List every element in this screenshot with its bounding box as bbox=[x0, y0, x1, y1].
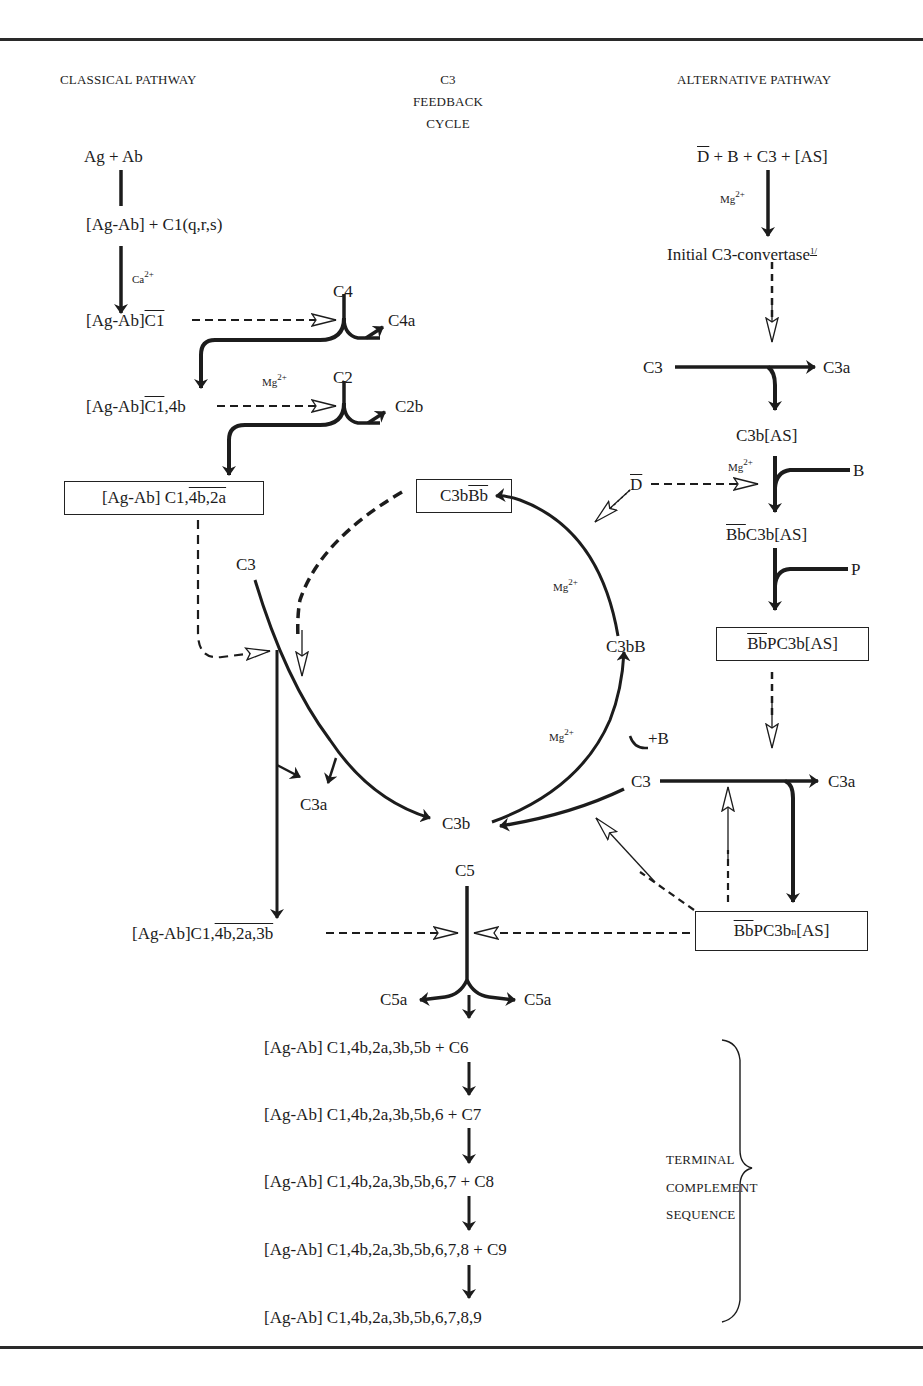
terminal-label-line1: TERMINAL bbox=[666, 1153, 735, 1166]
alt-c5-convertase-box: BbPC3bn[AS] bbox=[695, 911, 868, 951]
feedback-cycle-header-line3: CYCLE bbox=[418, 117, 478, 130]
c2b-label: C2b bbox=[395, 398, 423, 415]
c3-amplification-label: C3 bbox=[631, 773, 651, 790]
terminal-step-2: [Ag-Ab] C1,4b,2a,3b,5b,6 + C7 bbox=[264, 1106, 481, 1123]
c3-alt-label: C3 bbox=[643, 359, 663, 376]
c2-label: C2 bbox=[333, 369, 353, 386]
factor-b-label: B bbox=[853, 462, 864, 479]
alternative-pathway-header: ALTERNATIVE PATHWAY bbox=[677, 73, 831, 86]
c3a-alt-label: C3a bbox=[823, 359, 850, 376]
terminal-step-1: [Ag-Ab] C1,4b,2a,3b,5b + C6 bbox=[264, 1039, 469, 1056]
terminal-step-3: [Ag-Ab] C1,4b,2a,3b,5b,6,7 + C8 bbox=[264, 1173, 494, 1190]
magnesium-ion-label-alt: Mg2+ bbox=[720, 190, 745, 205]
c1-4b-label: [Ag-Ab]C1,4b bbox=[86, 398, 186, 415]
ag-ab-c1-label: [Ag-Ab] + C1(q,r,s) bbox=[86, 216, 222, 233]
properdin-label: P bbox=[851, 561, 860, 578]
magnesium-ion-label-bottom: Mg2+ bbox=[549, 728, 574, 743]
terminal-label-line3: SEQUENCE bbox=[666, 1208, 736, 1221]
terminal-label-line2: COMPLEMENT bbox=[666, 1181, 758, 1194]
terminal-step-5: [Ag-Ab] C1,4b,2a,3b,5b,6,7,8,9 bbox=[264, 1309, 482, 1326]
classical-c3-convertase-box: [Ag-Ab] C1,4b,2a bbox=[64, 481, 264, 515]
feedback-cycle-header-line2: FEEDBACK bbox=[403, 95, 493, 108]
c3-input-label: C3 bbox=[236, 556, 256, 573]
c4-label: C4 bbox=[333, 283, 353, 300]
c3b-label: C3b bbox=[442, 815, 470, 832]
c4a-label: C4a bbox=[388, 312, 415, 329]
magnesium-ion-label-alt2: Mg2+ bbox=[728, 458, 753, 473]
c3bbb-box: C3bBb bbox=[416, 479, 512, 513]
plus-b-label: +B bbox=[648, 730, 669, 747]
factor-d-label: D bbox=[630, 476, 642, 493]
c3b-as-label: C3b[AS] bbox=[736, 427, 797, 444]
feedback-cycle-header-line1: C3 bbox=[433, 73, 463, 86]
c3a-amplification-label: C3a bbox=[828, 773, 855, 790]
c5a-right-label: C5a bbox=[524, 991, 551, 1008]
terminal-step-4: [Ag-Ab] C1,4b,2a,3b,5b,6,7,8 + C9 bbox=[264, 1241, 507, 1258]
initial-convertase-label: Initial C3-convertase1/ bbox=[667, 246, 817, 263]
magnesium-ion-label-top: Mg2+ bbox=[553, 578, 578, 593]
stable-convertase-box: BbPC3b[AS] bbox=[716, 627, 869, 661]
bb-c3b-as-label: BbC3b[AS] bbox=[726, 526, 807, 543]
calcium-ion-label: Ca2+ bbox=[132, 270, 154, 285]
c5a-left-label: C5a bbox=[380, 991, 407, 1008]
c5-label: C5 bbox=[455, 862, 475, 879]
activated-c1-label: [Ag-Ab]C1 bbox=[86, 312, 164, 329]
c3bb-label: C3bB bbox=[606, 638, 646, 655]
classical-pathway-header: CLASSICAL PATHWAY bbox=[60, 73, 197, 86]
magnesium-ion-label-c2: Mg2+ bbox=[262, 373, 287, 388]
alternative-start-label: D + B + C3 + [AS] bbox=[697, 148, 828, 165]
c3a-classical-label: C3a bbox=[300, 796, 327, 813]
ag-ab-label: Ag + Ab bbox=[84, 148, 143, 165]
classical-c5-convertase-label: [Ag-Ab]C1,4b,2a,3b bbox=[132, 925, 273, 942]
